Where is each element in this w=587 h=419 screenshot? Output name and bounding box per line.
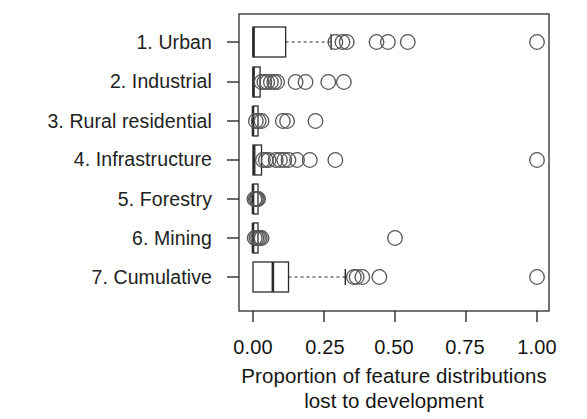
boxplot-figure: 1. Urban 2. Industrial 3. Rural resident… — [0, 0, 587, 419]
outlier-point — [400, 35, 415, 50]
outlier-point — [369, 35, 384, 50]
outlier-point — [328, 153, 343, 168]
outlier-point — [337, 75, 352, 90]
outlier-point — [298, 75, 313, 90]
outlier-point — [264, 75, 279, 90]
outlier-point — [530, 35, 545, 50]
outlier-point — [381, 35, 396, 50]
boxplot-row-5 — [247, 223, 402, 253]
plot-area — [0, 0, 587, 419]
boxplot-row-3 — [253, 145, 544, 175]
outlier-point — [388, 231, 403, 246]
boxplot-row-1 — [253, 67, 351, 97]
boxplot-row-4 — [247, 184, 265, 214]
outlier-point — [372, 270, 387, 285]
boxplot-row-0 — [253, 27, 544, 57]
box-6 — [253, 262, 289, 292]
boxplot-row-6 — [253, 262, 544, 292]
box-0 — [253, 27, 286, 57]
outlier-point — [308, 114, 323, 129]
outlier-point — [530, 270, 545, 285]
boxplot-row-2 — [249, 106, 323, 136]
outlier-point — [321, 75, 336, 90]
outlier-point — [530, 153, 545, 168]
